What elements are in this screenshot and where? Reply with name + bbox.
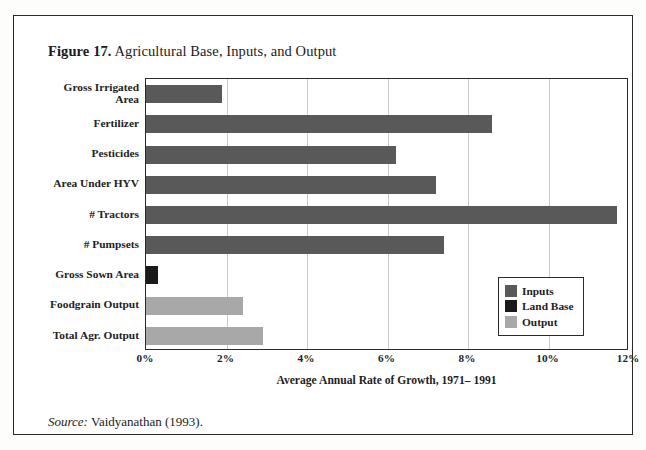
bar [146, 115, 492, 133]
y-axis-label-line: # Pumpsets [27, 238, 139, 251]
x-axis-tick-label: 10% [536, 352, 558, 364]
y-axis-label: Total Agr. Output [27, 329, 139, 342]
x-axis-tick-label: 4% [298, 352, 315, 364]
y-axis-label-line: Fertilizer [27, 117, 139, 130]
source-text: Vaidyanathan (1993). [88, 414, 203, 429]
source-note: Source: Vaidyanathan (1993). [48, 414, 203, 430]
bar [146, 206, 617, 224]
bar-row [146, 79, 629, 109]
y-axis-label: Area Under HYV [27, 177, 139, 190]
y-axis-label-line: Gross Sown Area [27, 268, 139, 281]
y-axis-label-line: Pesticides [27, 147, 139, 160]
y-axis-label-line: Total Agr. Output [27, 329, 139, 342]
y-axis-label-line: # Tractors [27, 208, 139, 221]
bar-row [146, 139, 629, 169]
y-axis-label: # Tractors [27, 208, 139, 221]
legend-swatch-icon [505, 300, 517, 312]
y-axis-label-line: Area [27, 93, 139, 106]
x-axis-tick-label: 8% [459, 352, 476, 364]
y-axis-label-line: Gross Irrigated [27, 81, 139, 94]
x-axis-title: Average Annual Rate of Growth, 1971– 199… [145, 374, 628, 387]
y-axis-label: Foodgrain Output [27, 298, 139, 311]
legend-item: Output [505, 314, 574, 330]
figure-number: Figure 17. [48, 43, 112, 59]
x-axis-tick-label: 0% [137, 352, 154, 364]
x-axis-tick-labels: 0%2%4%6%8%10%12% [145, 352, 628, 370]
x-axis-tick-label: 6% [378, 352, 395, 364]
bar [146, 146, 396, 164]
legend-label: Output [522, 316, 557, 328]
x-axis-tick-label: 2% [217, 352, 234, 364]
y-axis-label-line: Area Under HYV [27, 177, 139, 190]
legend-swatch-icon [505, 285, 517, 297]
legend-label: Land Base [522, 300, 574, 312]
legend-label: Inputs [522, 285, 554, 297]
bar [146, 297, 243, 315]
figure-page: Figure 17. Agricultural Base, Inputs, an… [0, 0, 646, 450]
x-axis-tick-label: 12% [617, 352, 639, 364]
bar [146, 266, 158, 284]
y-axis-label-line: Foodgrain Output [27, 298, 139, 311]
y-axis-label: Fertilizer [27, 117, 139, 130]
y-axis-label: Gross IrrigatedArea [27, 81, 139, 106]
bar [146, 176, 436, 194]
bar-row [146, 109, 629, 139]
legend-item: Land Base [505, 299, 574, 315]
source-label: Source: [48, 414, 88, 429]
chart: InputsLand BaseOutput Gross IrrigatedAre… [145, 78, 628, 350]
bar [146, 327, 263, 345]
bar-row [146, 200, 629, 230]
bar [146, 236, 444, 254]
y-axis-label: Gross Sown Area [27, 268, 139, 281]
figure-frame: Figure 17. Agricultural Base, Inputs, an… [13, 15, 633, 435]
y-axis-label: # Pumpsets [27, 238, 139, 251]
y-axis-label: Pesticides [27, 147, 139, 160]
bar-row [146, 230, 629, 260]
chart-legend: InputsLand BaseOutput [498, 277, 584, 336]
page-title: Figure 17. Agricultural Base, Inputs, an… [48, 43, 336, 60]
bar [146, 85, 222, 103]
bar-row [146, 170, 629, 200]
y-axis-labels: Gross IrrigatedAreaFertilizerPesticidesA… [27, 78, 139, 350]
plot-area: InputsLand BaseOutput [145, 78, 628, 350]
legend-swatch-icon [505, 316, 517, 328]
legend-item: Inputs [505, 283, 574, 299]
figure-title-text: Agricultural Base, Inputs, and Output [115, 43, 337, 59]
